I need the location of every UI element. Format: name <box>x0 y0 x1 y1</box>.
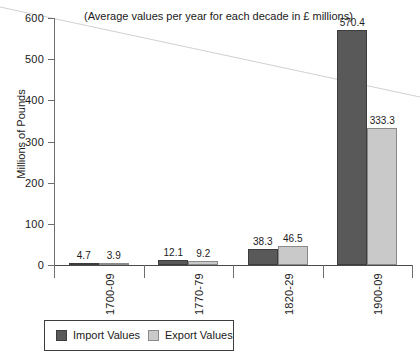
y-axis-title: Millions of Pounds <box>15 64 27 204</box>
bar-value-label: 333.3 <box>361 115 403 126</box>
chart-legend: Import Values Export Values <box>44 320 234 351</box>
x-axis-tick <box>323 265 324 278</box>
y-axis-tick-label: 0 <box>38 259 44 271</box>
plot-area: 4.73.912.19.238.346.5570.4333.3 <box>54 18 412 265</box>
y-axis-tick-label: 500 <box>25 53 44 65</box>
bar-value-label: 9.2 <box>182 248 224 259</box>
bar-import-1900-09 <box>337 30 367 265</box>
x-axis-tick <box>54 265 55 278</box>
bar-import-1700-09 <box>69 263 99 265</box>
bar-import-1770-79 <box>158 260 188 265</box>
bar-value-label: 570.4 <box>331 17 373 28</box>
bar-import-1820-29 <box>248 249 278 265</box>
bar-export-1770-79 <box>188 261 218 265</box>
bar-value-label: 46.5 <box>272 233 314 244</box>
legend-item-import: Import Values <box>56 329 140 341</box>
bar-export-1820-29 <box>278 246 308 265</box>
y-axis-tick-label: 600 <box>25 12 44 24</box>
x-axis-category-label: 1900-09 <box>372 273 384 315</box>
x-axis-category-label: 1700-09 <box>104 273 116 315</box>
legend-item-export: Export Values <box>148 329 233 341</box>
x-axis-tick <box>412 265 413 278</box>
y-axis-tick-label: 400 <box>25 94 44 106</box>
x-axis-tick <box>233 265 234 278</box>
bar-value-label: 3.9 <box>93 250 135 261</box>
bar-export-1900-09 <box>367 128 397 265</box>
legend-label-import: Import Values <box>73 329 140 341</box>
light-grey-swatch-icon <box>148 330 159 341</box>
y-axis-tick-label: 100 <box>25 218 44 230</box>
y-axis-tick-label: 200 <box>25 177 44 189</box>
dark-grey-swatch-icon <box>56 330 67 341</box>
y-axis-tick-label: 300 <box>25 136 44 148</box>
x-axis-category-label: 1820-29 <box>283 273 295 315</box>
bar-chart: (Average values per year for each decade… <box>0 0 420 359</box>
bar-export-1700-09 <box>99 263 129 265</box>
x-axis-category-label: 1770-79 <box>193 273 205 315</box>
legend-label-export: Export Values <box>165 329 233 341</box>
x-axis-tick <box>144 265 145 278</box>
